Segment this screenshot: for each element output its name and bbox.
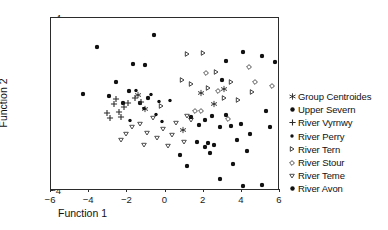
data-point <box>231 161 236 166</box>
data-point <box>238 121 243 126</box>
circle-filled-icon <box>286 183 298 195</box>
data-point <box>202 118 207 123</box>
data-point <box>213 69 219 75</box>
data-point <box>184 51 190 57</box>
data-point <box>223 112 228 117</box>
data-point <box>188 81 194 87</box>
plot-area <box>50 17 279 190</box>
y-axis-label: Function 2 <box>0 78 9 127</box>
data-point <box>219 78 224 83</box>
data-point <box>203 70 209 76</box>
data-point <box>248 131 253 136</box>
data-point <box>211 101 218 108</box>
data-point <box>160 118 164 123</box>
legend-item[interactable]: River Avon <box>286 182 386 195</box>
legend-item-label: Upper Severn <box>298 104 355 115</box>
data-point <box>240 183 245 188</box>
data-point <box>179 127 186 134</box>
data-point <box>198 108 204 114</box>
data-point <box>160 126 166 132</box>
x-tick-label: −2 <box>121 194 132 205</box>
data-point <box>196 123 201 128</box>
legend-item[interactable]: River Teme <box>286 169 386 182</box>
data-point <box>94 45 99 50</box>
data-point <box>212 143 217 148</box>
data-point <box>185 164 190 169</box>
data-point <box>137 98 144 105</box>
data-point <box>249 89 255 95</box>
legend-item-label: River Stour <box>298 157 344 168</box>
data-point <box>223 58 228 63</box>
legend-item-label: River Avon <box>298 183 343 194</box>
data-point <box>81 92 86 97</box>
data-point <box>240 50 245 55</box>
data-point <box>267 125 272 130</box>
data-point <box>200 50 206 56</box>
circle-filled-icon <box>286 104 298 116</box>
data-point <box>118 137 124 143</box>
legend-item[interactable]: River Tern <box>286 143 386 156</box>
legend-item[interactable]: River Vyrnwy <box>286 116 386 129</box>
legend-item-label: River Vyrnwy <box>298 117 352 128</box>
scatter-plot-figure: Function 2 Function 1 −6−4−20246−4−2024 … <box>0 0 388 230</box>
data-point <box>205 85 211 91</box>
data-point <box>210 113 215 118</box>
plus-icon <box>286 117 298 129</box>
data-point <box>269 83 275 89</box>
x-tick-label: 4 <box>238 194 243 205</box>
data-point <box>246 64 252 70</box>
data-point <box>215 88 221 94</box>
data-point <box>137 121 143 127</box>
data-point <box>202 144 207 149</box>
data-point <box>229 123 234 128</box>
triangle-right-icon <box>286 143 298 155</box>
data-point <box>113 79 118 84</box>
data-point <box>259 182 264 187</box>
data-point <box>181 139 187 145</box>
legend-item-label: River Tern <box>298 144 340 155</box>
data-point <box>165 143 171 149</box>
legend-item-label: Group Centroides <box>298 91 371 102</box>
data-point <box>252 79 258 85</box>
data-point <box>177 153 182 158</box>
data-point <box>273 60 278 65</box>
data-point <box>197 89 204 96</box>
data-point <box>263 108 268 113</box>
data-point <box>158 103 164 109</box>
legend-item[interactable]: River Stour <box>286 156 386 169</box>
legend-item[interactable]: Group Centroides <box>286 90 386 103</box>
data-point <box>194 139 199 144</box>
x-tick-mark <box>279 189 280 192</box>
data-point <box>134 87 138 92</box>
legend-item[interactable]: Upper Severn <box>286 103 386 116</box>
data-point <box>217 125 222 130</box>
x-tick-label: 2 <box>200 194 205 205</box>
data-point <box>152 33 157 38</box>
data-point <box>244 148 249 153</box>
data-point <box>217 177 222 182</box>
data-point <box>112 96 119 103</box>
data-point <box>154 135 160 141</box>
x-tick-label: 6 <box>276 194 281 205</box>
data-point <box>149 91 153 96</box>
legend-item[interactable]: River Perry <box>286 130 386 143</box>
data-point <box>107 114 114 121</box>
data-point <box>107 94 112 99</box>
triangle-down-icon <box>286 170 298 182</box>
data-point <box>189 115 194 120</box>
data-point <box>235 138 240 143</box>
data-point <box>150 115 156 121</box>
data-point <box>220 85 227 92</box>
data-point <box>127 89 132 94</box>
data-point <box>117 114 124 121</box>
x-tick-label: 0 <box>162 194 167 205</box>
circle-filled-sm-icon <box>286 130 298 142</box>
data-point <box>179 77 185 83</box>
x-tick-label: −4 <box>83 194 94 205</box>
legend: Group CentroidesUpper SevernRiver Vyrnwy… <box>286 90 386 196</box>
x-axis-label: Function 1 <box>58 207 107 219</box>
data-points-layer <box>51 18 278 189</box>
data-point <box>208 151 213 156</box>
data-point <box>143 63 148 68</box>
star-icon <box>286 91 298 103</box>
